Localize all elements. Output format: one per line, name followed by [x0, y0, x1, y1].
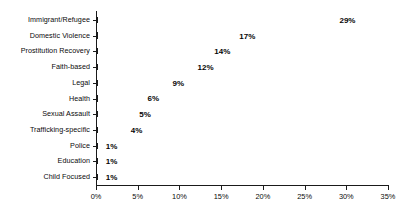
bar-value-label-7: 4%: [129, 125, 142, 134]
category-label-6: Sexual Assault: [42, 110, 90, 118]
x-axis-tick-label-3: 15%: [214, 192, 229, 201]
x-axis-tick-5: [305, 186, 306, 190]
bar-10: 1%: [96, 174, 104, 180]
x-axis-tick-label-5: 25%: [297, 192, 312, 201]
bar-2: 14%: [96, 48, 213, 54]
bar-rect-6: [96, 111, 98, 117]
x-axis-tick-label-7: 35%: [381, 192, 396, 201]
x-axis-tick-label-4: 20%: [255, 192, 270, 201]
bar-value-label-8: 1%: [104, 141, 117, 150]
category-label-8: Police: [70, 142, 90, 150]
category-label-9: Education: [58, 157, 90, 165]
bar-6: 5%: [96, 111, 138, 117]
x-axis-tick-0: [96, 186, 97, 190]
bar-rect-5: [96, 95, 98, 101]
bar-5: 6%: [96, 95, 146, 101]
x-axis-tick-6: [346, 186, 347, 190]
bar-value-label-5: 6%: [146, 94, 159, 103]
bar-value-label-1: 17%: [238, 31, 256, 40]
bar-rect-10: [96, 174, 98, 180]
bar-value-label-6: 5%: [138, 110, 151, 119]
bar-value-label-0: 29%: [338, 15, 356, 24]
bar-1: 17%: [96, 32, 238, 38]
category-label-5: Health: [69, 95, 90, 103]
bar-4: 9%: [96, 80, 171, 86]
x-axis-tick-label-0: 0%: [91, 192, 102, 201]
bar-rect-4: [96, 80, 98, 86]
bar-rect-9: [96, 158, 98, 164]
bar-value-label-10: 1%: [104, 173, 117, 182]
bar-rect-2: [96, 48, 98, 54]
x-axis-tick-3: [221, 186, 222, 190]
bar-rect-1: [96, 32, 98, 38]
bar-value-label-3: 12%: [196, 63, 214, 72]
category-label-10: Child Focused: [43, 173, 90, 181]
bar-8: 1%: [96, 143, 104, 149]
x-axis-tick-label-2: 10%: [172, 192, 187, 201]
bar-9: 1%: [96, 158, 104, 164]
x-axis-tick-label-1: 5%: [132, 192, 143, 201]
category-label-2: Prostitution Recovery: [21, 47, 90, 55]
x-axis-tick-1: [138, 186, 139, 190]
category-label-0: Immigrant/Refugee: [28, 16, 90, 24]
x-axis-line: [96, 185, 389, 186]
plot-area: Immigrant/RefugeeDomestic ViolenceProsti…: [0, 0, 416, 208]
category-label-7: Trafficking-specific: [30, 126, 90, 134]
bar-value-label-2: 14%: [213, 47, 231, 56]
x-axis-tick-label-6: 30%: [339, 192, 354, 201]
bar-7: 4%: [96, 127, 129, 133]
category-label-3: Faith-based: [51, 63, 90, 71]
x-axis-tick-7: [388, 186, 389, 190]
bar-0: 29%: [96, 17, 338, 23]
bar-rect-0: [96, 17, 98, 23]
bar-rect-8: [96, 143, 98, 149]
x-axis-tick-4: [263, 186, 264, 190]
bar-rect-3: [96, 64, 98, 70]
horizontal-bar-chart: Immigrant/RefugeeDomestic ViolenceProsti…: [0, 0, 416, 208]
bar-value-label-9: 1%: [104, 157, 117, 166]
x-axis-tick-2: [179, 186, 180, 190]
category-label-4: Legal: [72, 79, 90, 87]
category-label-1: Domestic Violence: [30, 32, 90, 40]
bar-3: 12%: [96, 64, 196, 70]
bar-value-label-4: 9%: [171, 78, 184, 87]
bar-rect-7: [96, 127, 98, 133]
